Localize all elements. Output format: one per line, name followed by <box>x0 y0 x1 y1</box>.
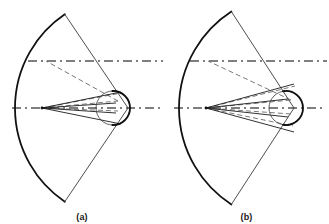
diagram-a-canvas <box>0 0 164 224</box>
dashed-ray <box>208 61 291 100</box>
caption-a: (a) <box>0 212 164 222</box>
sector-edge-upper-a <box>65 108 128 202</box>
panel-b <box>164 0 329 224</box>
diagram-b-canvas <box>164 0 329 224</box>
focal-point-b <box>205 107 208 110</box>
cone-ray <box>206 108 294 132</box>
cone-ray <box>206 108 288 117</box>
focal-point-a <box>41 107 44 110</box>
cone-ray <box>206 99 288 108</box>
panel-a <box>0 0 164 224</box>
cone-ray <box>206 84 294 108</box>
figure-root: (a) (b) <box>0 0 329 224</box>
caption-b: (b) <box>164 212 329 222</box>
sector-edge-upper-b <box>231 108 294 204</box>
